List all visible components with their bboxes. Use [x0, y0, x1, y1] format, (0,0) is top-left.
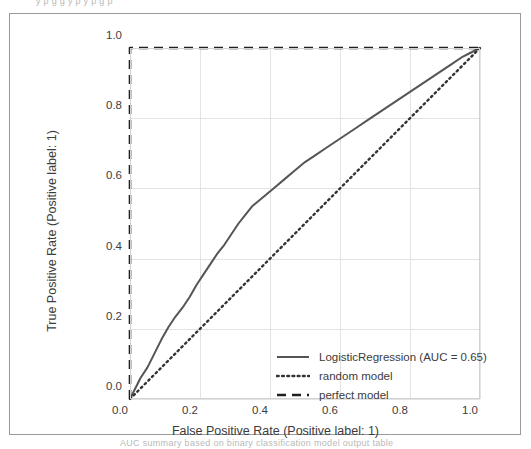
x-tick-label-1: 0.2: [182, 404, 198, 416]
x-axis-title: False Positive Rate (Positive label: 1): [10, 424, 531, 438]
legend-line-sample-dotted: [276, 370, 310, 382]
y-tick-label-5: 1.0: [88, 29, 122, 41]
y-axis-title: True Positive Rate (Positive label: 1): [45, 61, 59, 401]
y-tick-label-3: 0.6: [88, 169, 122, 181]
figure-frame: 0.00.20.40.60.81.00.00.20.40.60.81.0 Tru…: [9, 13, 521, 435]
gridline-vertical-5: [480, 48, 481, 399]
x-tick-label-2: 0.4: [252, 404, 268, 416]
legend-line-sample-dashed: [276, 389, 310, 401]
x-tick-label-4: 0.8: [392, 404, 408, 416]
x-tick-label-0: 0.0: [112, 404, 128, 416]
top-clipped-text: y p g g y p y p g p: [0, 0, 531, 7]
y-tick-label-2: 0.4: [88, 240, 122, 252]
chart-legend: LogisticRegression (AUC = 0.65)random mo…: [276, 347, 474, 403]
legend-label-2: perfect model: [319, 389, 389, 401]
x-tick-label-5: 1.0: [462, 404, 478, 416]
legend-label-1: random model: [319, 370, 393, 382]
y-tick-label-1: 0.2: [88, 310, 122, 322]
bottom-clipped-text: AUC summary based on binary classificati…: [0, 438, 531, 449]
legend-line-sample-solid: [276, 351, 310, 363]
legend-item-2: perfect model: [276, 387, 474, 403]
legend-item-0: LogisticRegression (AUC = 0.65): [276, 349, 474, 365]
y-tick-label-0: 0.0: [88, 380, 122, 392]
y-tick-label-4: 0.8: [88, 99, 122, 111]
legend-label-0: LogisticRegression (AUC = 0.65): [319, 351, 487, 363]
legend-item-1: random model: [276, 368, 474, 384]
x-tick-label-3: 0.6: [322, 404, 338, 416]
